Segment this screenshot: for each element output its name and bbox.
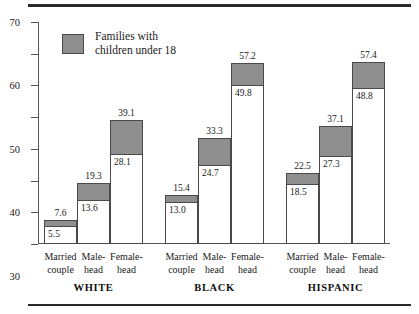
bar-total-label: 15.4 <box>173 183 190 193</box>
legend-label: Families with children under 18 <box>95 30 176 57</box>
y-tick-20: 20 <box>31 181 38 182</box>
y-tick-0: 0 <box>31 244 38 245</box>
legend: Families with children under 18 <box>62 30 176 57</box>
x-axis-category-labels: MarriedcoupleMale-headFemale-headMarried… <box>38 246 390 280</box>
bar-segment-children <box>352 62 385 89</box>
x-label-hispanic-female-head: Female-head <box>352 250 385 276</box>
bar-white-male-head <box>77 183 110 244</box>
bar-sub-label: 27.3 <box>323 159 340 169</box>
bar-sub-label: 28.1 <box>114 157 131 167</box>
bar-total-label: 39.1 <box>118 108 135 118</box>
x-label-hispanic-married-couple: Marriedcouple <box>286 250 319 276</box>
bar-sub-label: 49.8 <box>235 88 252 98</box>
bar-sub-label: 18.5 <box>290 187 307 197</box>
top-rule <box>28 4 411 7</box>
y-tick-60: 60 <box>31 54 38 55</box>
bar-black-male-head <box>198 138 231 244</box>
bar-sub-label: 48.8 <box>356 91 373 101</box>
x-axis-group-labels: WHITEBLACKHISPANIC <box>38 282 390 298</box>
y-tick-50: 50 <box>31 85 38 86</box>
y-tick-label-40: 40 <box>10 207 21 218</box>
bar-segment-children <box>44 220 77 227</box>
bar-white-female-head <box>110 120 143 244</box>
bar-hispanic-married-couple <box>286 173 319 244</box>
bar-segment-children <box>286 173 319 186</box>
bar-black-married-couple <box>165 195 198 244</box>
y-tick-label-30: 30 <box>10 270 21 281</box>
bar-sub-label: 13.6 <box>81 203 98 213</box>
bar-segment-children <box>198 138 231 165</box>
bar-hispanic-female-head <box>352 62 385 244</box>
bar-segment-children <box>77 183 110 201</box>
x-label-black-married-couple: Marriedcouple <box>165 250 198 276</box>
group-label-black: BLACK <box>165 282 264 293</box>
bar-total-label: 37.1 <box>327 114 344 124</box>
bar-segment-children <box>319 126 352 157</box>
x-label-hispanic-male-head: Male-head <box>319 250 352 276</box>
bar-total-label: 33.3 <box>206 126 223 136</box>
bar-total-label: 19.3 <box>85 171 102 181</box>
group-label-hispanic: HISPANIC <box>286 282 385 293</box>
bar-segment-children <box>231 63 264 86</box>
bar-total-label: 22.5 <box>294 161 311 171</box>
y-tick-70: 70 <box>31 22 38 23</box>
y-tick-10: 10 <box>31 212 38 213</box>
bar-segment-children <box>110 120 143 155</box>
bottom-rule <box>28 304 411 306</box>
y-tick-label-70: 70 <box>10 17 21 28</box>
bar-sub-label: 5.5 <box>48 229 60 239</box>
bar-total-label: 57.4 <box>360 50 377 60</box>
bar-sub-label: 24.7 <box>202 168 219 178</box>
x-label-black-male-head: Male-head <box>198 250 231 276</box>
bar-total-label: 57.2 <box>239 51 256 61</box>
group-label-white: WHITE <box>44 282 143 293</box>
y-tick-40: 40 <box>31 117 38 118</box>
bar-total-label: 7.6 <box>55 208 67 218</box>
bar-sub-label: 13.0 <box>169 205 186 215</box>
x-label-white-female-head: Female-head <box>110 250 143 276</box>
bar-hispanic-male-head <box>319 126 352 244</box>
y-tick-30: 30 <box>31 149 38 150</box>
legend-swatch-children <box>62 34 84 54</box>
x-label-white-married-couple: Marriedcouple <box>44 250 77 276</box>
y-tick-label-60: 60 <box>10 80 21 91</box>
bar-segment-children <box>165 195 198 203</box>
x-label-black-female-head: Female-head <box>231 250 264 276</box>
x-label-white-male-head: Male-head <box>77 250 110 276</box>
y-tick-label-50: 50 <box>10 143 21 154</box>
